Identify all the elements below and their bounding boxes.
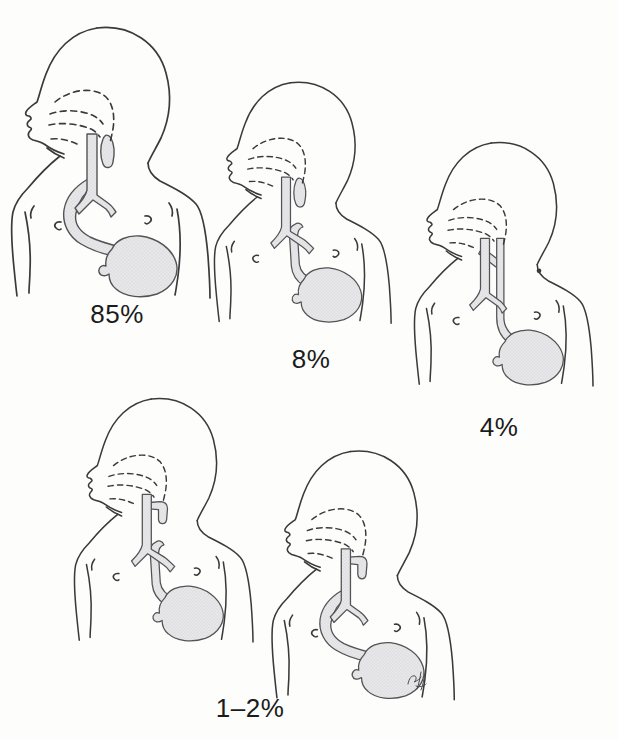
left-inner-arm-line [25, 212, 30, 293]
left-nipple-mark [55, 222, 61, 230]
percentage-label-85: 85% [82, 299, 152, 330]
head-back-outline [350, 451, 417, 576]
ink-dot [537, 268, 542, 273]
infant-figure-ea-proximal-fistula [64, 372, 271, 660]
right-armpit-mark [355, 239, 358, 251]
under-jaw-line [246, 190, 261, 199]
infant-figure-ea-double-fistula [261, 424, 473, 718]
right-inner-arm-line [562, 306, 567, 383]
monogram-stroke [416, 684, 426, 687]
trachea-shape [271, 177, 314, 254]
left-armpit-mark [231, 241, 234, 252]
left-chest-arm-outline [414, 258, 458, 384]
pharynx-dashed-line [51, 139, 77, 144]
right-inner-arm-line [360, 244, 365, 321]
infant-figure-ea-distal-fistula [0, 0, 230, 318]
right-inner-arm-line [175, 209, 180, 295]
head-face-outline [87, 399, 151, 512]
pharynx-dashed-line [108, 485, 154, 497]
stomach-shape [99, 236, 177, 297]
upper-esophageal-pouch-shape [101, 135, 114, 167]
right-inner-arm-line [222, 562, 227, 639]
left-chest-arm-outline [11, 156, 60, 296]
pharynx-dashed-line [454, 199, 507, 245]
head-back-outline [151, 399, 216, 521]
trachea-shape [470, 238, 507, 313]
right-armpit-mark [556, 301, 559, 313]
distal-esophagus-shape [150, 541, 175, 607]
left-inner-arm-line [87, 565, 92, 638]
head-back-outline [290, 82, 355, 203]
stomach-shape [493, 330, 563, 385]
right-nipple-mark [195, 568, 201, 575]
percentage-label-4: 4% [464, 412, 534, 443]
infant-drawing-esophageal-atresia-with-proximal-fistula [64, 372, 271, 660]
left-chest-arm-outline [272, 569, 317, 698]
upper-pouch-with-fistula-shape [150, 502, 168, 524]
pharynx-dashed-line [110, 499, 133, 504]
left-armpit-mark [432, 303, 435, 314]
right-shoulder-arm-outline [537, 265, 593, 387]
pharynx-dashed-line [308, 553, 332, 558]
distal-esophagus-shape [64, 179, 124, 257]
trachea-shape [132, 494, 175, 571]
monogram-stroke [417, 672, 425, 690]
pharynx-dashed-line [50, 111, 103, 124]
right-nipple-mark [333, 250, 339, 257]
left-nipple-mark [312, 630, 318, 637]
pharynx-dashed-line [449, 218, 497, 230]
under-jaw-line [106, 507, 121, 516]
left-inner-arm-line [427, 309, 432, 382]
right-nipple-mark [145, 216, 151, 224]
right-shoulder-arm-outline [197, 521, 253, 643]
pharynx-dashed-line [109, 474, 157, 486]
head-face-outline [285, 452, 351, 568]
infant-figure-h-type-fistula [404, 116, 611, 404]
upper-esophageal-pouch-shape [294, 178, 306, 207]
right-nipple-mark [395, 624, 401, 631]
under-jaw-line [47, 148, 64, 158]
pharynx-dashed-line [250, 181, 273, 186]
left-inner-arm-line [284, 621, 289, 695]
stomach-shape [292, 268, 362, 322]
trachea-shape [330, 549, 368, 625]
percentage-label-1-2: 1–2% [215, 693, 285, 724]
infant-drawing-esophageal-atresia-with-proximal-and-distal-fistula [261, 424, 473, 718]
left-armpit-mark [92, 559, 95, 570]
infant-drawing-esophageal-atresia-with-distal-fistula [0, 0, 230, 318]
pharynx-dashed-line [306, 539, 353, 551]
left-nipple-mark [253, 255, 259, 262]
right-shoulder-arm-outline [336, 203, 391, 323]
illustrator-monogram [405, 666, 431, 694]
pharynx-dashed-line [450, 243, 473, 248]
under-jaw-line [446, 251, 461, 260]
medical-illustration-page: 85% 8% 4% 1–2% [0, 0, 618, 740]
right-nipple-mark [535, 312, 541, 319]
pharynx-dashed-line [307, 528, 356, 540]
distal-esophagus-shape [289, 223, 314, 288]
pharynx-dashed-line [253, 138, 305, 184]
head-back-outline [97, 27, 169, 163]
pharynx-dashed-line [312, 509, 366, 556]
left-armpit-mark [289, 615, 292, 626]
left-nipple-mark [113, 573, 119, 580]
head-face-outline [227, 83, 291, 195]
pharynx-dashed-line [49, 124, 100, 137]
right-armpit-mark [417, 612, 420, 624]
head-face-outline [427, 143, 491, 256]
right-armpit-mark [216, 557, 219, 569]
pharynx-dashed-line [248, 168, 293, 180]
right-armpit-mark [169, 203, 172, 216]
infant-drawing-h-type-fistula-without-atresia [404, 116, 611, 404]
pharynx-dashed-line [114, 455, 167, 501]
trachea-shape [75, 134, 116, 217]
esophagus-shape [497, 238, 520, 347]
left-chest-arm-outline [74, 514, 118, 640]
infant-drawing-esophageal-atresia-without-fistula [204, 56, 409, 341]
head-back-outline [491, 143, 556, 265]
infant-figure-ea-no-fistula [204, 56, 409, 341]
stomach-shape [153, 586, 223, 641]
distal-esophagus-shape [320, 590, 375, 662]
left-inner-arm-line [226, 247, 231, 319]
percentage-label-8: 8% [276, 344, 346, 375]
